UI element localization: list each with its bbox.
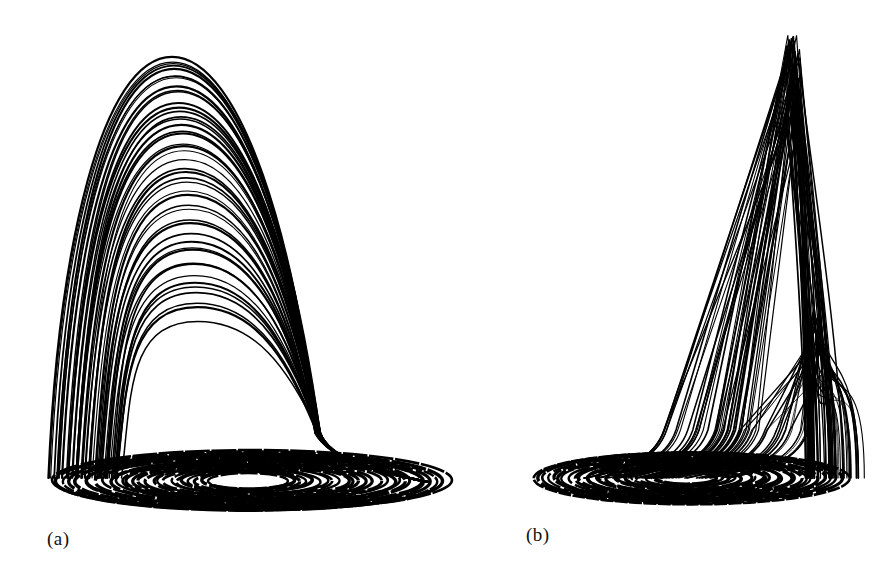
panel-label-b: (b) <box>526 524 550 546</box>
attractor-plot-b <box>0 0 884 577</box>
panel-label-a: (a) <box>47 528 70 550</box>
attractor-panel-b <box>470 0 884 577</box>
